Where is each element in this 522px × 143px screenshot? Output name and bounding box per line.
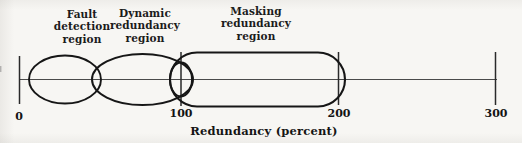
diagram-canvas	[0, 0, 522, 143]
redundancy-regions-figure: Fault detection region Dynamic redundanc…	[0, 0, 522, 143]
